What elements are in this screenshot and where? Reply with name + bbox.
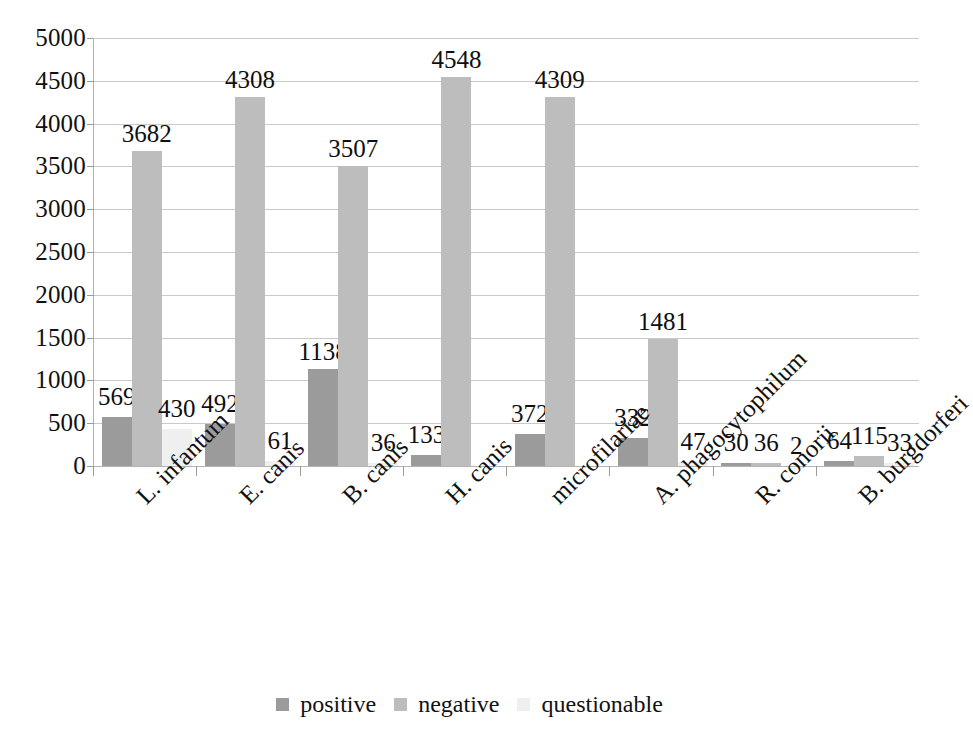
gridline: [93, 252, 919, 253]
bar-negative: [441, 77, 471, 466]
legend-label: negative: [418, 692, 499, 716]
y-tick-mark: [87, 338, 94, 339]
y-tick-mark: [87, 81, 94, 82]
bar-positive: [515, 434, 545, 466]
bar-value-label: 4308: [225, 67, 275, 92]
x-tick-mark: [609, 466, 610, 476]
bar-value-label: 133: [408, 422, 446, 447]
legend-swatch-icon: [394, 698, 407, 711]
y-axis-tick-labels: 0500100015002000250030003500400045005000: [0, 38, 86, 466]
x-tick-mark: [816, 466, 817, 476]
bar-value-label: 430: [158, 396, 196, 421]
plot-top-border: [93, 38, 919, 39]
bar-value-label: 4309: [535, 67, 585, 92]
y-tick-label-text: 2000: [2, 282, 86, 307]
legend-swatch-icon: [276, 698, 289, 711]
gridline: [93, 295, 919, 296]
y-tick-mark: [87, 124, 94, 125]
bar-negative: [648, 339, 678, 466]
bar-value-label: 4548: [431, 47, 481, 72]
gridline: [93, 338, 919, 339]
bar-value-label: 36: [754, 430, 779, 455]
x-tick-mark: [93, 466, 94, 476]
y-tick-mark: [87, 209, 94, 210]
y-tick-mark: [87, 380, 94, 381]
x-tick-mark: [713, 466, 714, 476]
bar-positive: [721, 463, 751, 466]
bar-positive: [824, 461, 854, 466]
bar-negative: [235, 97, 265, 466]
y-tick-label-text: 500: [2, 410, 86, 435]
x-tick-mark: [403, 466, 404, 476]
y-tick-label-text: 4000: [2, 111, 86, 136]
bar-value-label: 372: [511, 401, 549, 426]
bar-value-label: 3682: [122, 121, 172, 146]
y-tick-label-text: 4500: [2, 68, 86, 93]
y-tick-label-text: 2500: [2, 239, 86, 264]
bar-positive: [102, 417, 132, 466]
y-tick-label-text: 5000: [2, 25, 86, 50]
legend: positivenegativequestionable: [0, 689, 939, 719]
bar-negative: [338, 166, 368, 466]
y-tick-mark: [87, 166, 94, 167]
y-tick-label-text: 0: [2, 453, 86, 478]
y-tick-label-text: 1500: [2, 325, 86, 350]
gridline: [93, 166, 919, 167]
legend-label: questionable: [541, 692, 662, 716]
gridline: [93, 380, 919, 381]
bar-value-label: 1481: [638, 309, 688, 334]
plot-area: 5693682430492430861113835073613345483724…: [93, 38, 919, 466]
gridline: [93, 124, 919, 125]
legend-label: positive: [300, 692, 376, 716]
bar-positive: [308, 369, 338, 466]
legend-swatch-icon: [517, 698, 530, 711]
legend-item-positive[interactable]: positive: [276, 692, 376, 716]
gridline: [93, 81, 919, 82]
x-tick-mark: [196, 466, 197, 476]
y-tick-mark: [87, 423, 94, 424]
legend-item-questionable[interactable]: questionable: [517, 692, 662, 716]
bar-value-label: 569: [98, 384, 136, 409]
y-tick-label-text: 1000: [2, 367, 86, 392]
y-tick-mark: [87, 252, 94, 253]
y-tick-label-text: 3500: [2, 153, 86, 178]
legend-item-negative[interactable]: negative: [394, 692, 499, 716]
bar-value-label: 115: [851, 423, 888, 448]
bar-value-label: 3507: [328, 136, 378, 161]
y-tick-label-text: 3000: [2, 196, 86, 221]
bar-negative: [545, 97, 575, 466]
y-tick-mark: [87, 295, 94, 296]
bar-positive: [411, 455, 441, 466]
x-tick-mark: [506, 466, 507, 476]
x-tick-mark: [300, 466, 301, 476]
gridline: [93, 209, 919, 210]
